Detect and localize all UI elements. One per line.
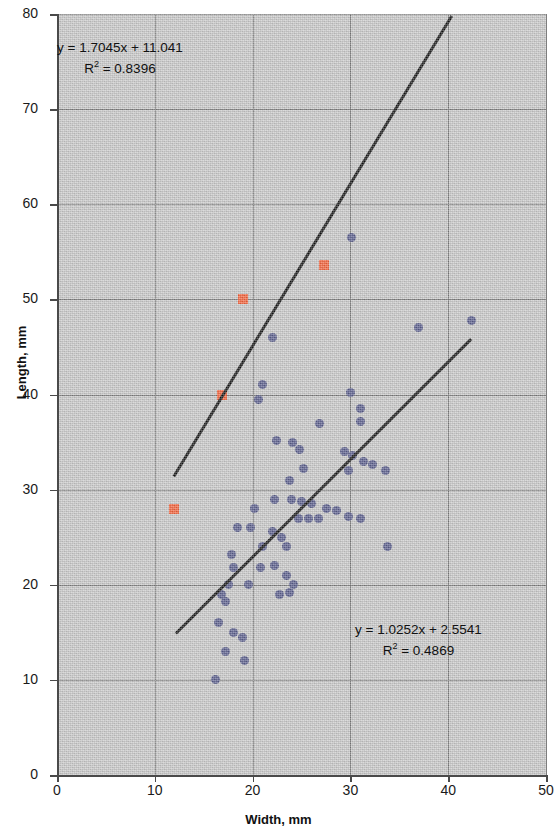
chart-figure: 01020304050607080 01020304050 Length, mm… xyxy=(0,0,557,838)
data-point-marker xyxy=(214,618,223,627)
data-point-marker xyxy=(383,542,392,551)
data-point-marker xyxy=(233,523,242,532)
data-point-marker xyxy=(238,294,248,304)
x-axis-line xyxy=(57,775,547,777)
x-tick-mark xyxy=(350,775,352,782)
trendline xyxy=(175,338,473,635)
y-tick-label: 80 xyxy=(0,5,38,21)
data-point-marker xyxy=(346,388,355,397)
gridline-vertical xyxy=(546,14,547,775)
gridline-horizontal xyxy=(57,299,546,300)
data-point-marker xyxy=(368,460,377,469)
y-tick-mark xyxy=(50,395,57,397)
y-tick-mark xyxy=(50,775,57,777)
y-tick-label: 60 xyxy=(0,195,38,211)
y-tick-label: 70 xyxy=(0,100,38,116)
y-tick-mark xyxy=(50,490,57,492)
data-point-marker xyxy=(359,457,368,466)
data-point-marker xyxy=(322,504,331,513)
gridline-horizontal xyxy=(57,490,546,491)
y-tick-mark xyxy=(50,14,57,16)
x-tick-mark xyxy=(155,775,157,782)
y-tick-mark xyxy=(50,680,57,682)
gridline-horizontal xyxy=(57,14,546,15)
equation-text: y = 1.0252x + 2.5541 xyxy=(355,622,482,637)
data-point-marker xyxy=(414,323,423,332)
x-tick-label: 0 xyxy=(37,782,77,798)
r-squared-text: R2 = 0.8396 xyxy=(57,58,183,78)
y-tick-mark xyxy=(50,109,57,111)
r-squared-text: R2 = 0.4869 xyxy=(355,640,482,660)
x-tick-label: 10 xyxy=(135,782,175,798)
data-point-marker xyxy=(356,404,365,413)
data-point-marker xyxy=(254,395,263,404)
data-point-marker xyxy=(332,506,341,515)
data-point-marker xyxy=(304,514,313,523)
gridline-horizontal xyxy=(57,395,546,396)
data-point-marker xyxy=(282,571,291,580)
y-tick-mark xyxy=(50,585,57,587)
x-tick-label: 20 xyxy=(233,782,273,798)
data-point-marker xyxy=(240,656,249,665)
equation-text: y = 1.7045x + 11.041 xyxy=(57,40,183,55)
data-point-marker xyxy=(275,590,284,599)
data-point-marker xyxy=(299,464,308,473)
data-point-marker xyxy=(238,633,247,642)
y-tick-label: 20 xyxy=(0,576,38,592)
data-point-marker xyxy=(467,316,476,325)
trendline-equation-eq-bottom: y = 1.0252x + 2.5541R2 = 0.4869 xyxy=(355,620,482,660)
data-point-marker xyxy=(277,533,286,542)
gridline-horizontal xyxy=(57,585,546,586)
data-point-marker xyxy=(344,512,353,521)
gridline-vertical xyxy=(253,14,254,775)
data-point-marker xyxy=(319,260,329,270)
x-tick-mark xyxy=(448,775,450,782)
y-tick-label: 10 xyxy=(0,671,38,687)
data-point-marker xyxy=(285,588,294,597)
x-tick-mark xyxy=(253,775,255,782)
y-axis-line xyxy=(57,14,59,776)
data-point-marker xyxy=(270,561,279,570)
x-tick-label: 30 xyxy=(330,782,370,798)
data-point-marker xyxy=(356,514,365,523)
y-axis-title: Length, mm xyxy=(14,293,29,433)
x-tick-mark xyxy=(57,775,59,782)
data-point-marker xyxy=(282,542,291,551)
trendline xyxy=(173,16,454,478)
data-point-marker xyxy=(315,419,324,428)
data-point-marker xyxy=(250,504,259,513)
y-tick-mark xyxy=(50,299,57,301)
x-tick-label: 40 xyxy=(428,782,468,798)
data-point-marker xyxy=(246,523,255,532)
data-point-marker xyxy=(347,233,356,242)
data-point-marker xyxy=(258,380,267,389)
data-point-marker xyxy=(272,436,281,445)
x-tick-label: 50 xyxy=(526,782,557,798)
data-point-marker xyxy=(227,550,236,559)
x-axis-title: Width, mm xyxy=(0,812,557,827)
data-point-marker xyxy=(314,514,323,523)
y-tick-mark xyxy=(50,204,57,206)
data-point-marker xyxy=(221,597,230,606)
gridline-vertical xyxy=(155,14,156,775)
data-point-marker xyxy=(211,675,220,684)
gridline-horizontal xyxy=(57,680,546,681)
data-point-marker xyxy=(221,647,230,656)
y-tick-label: 30 xyxy=(0,481,38,497)
y-tick-label: 0 xyxy=(0,766,38,782)
data-point-marker xyxy=(344,466,353,475)
data-point-marker xyxy=(295,445,304,454)
plot-area xyxy=(57,14,546,775)
gridline-horizontal xyxy=(57,204,546,205)
trendline-equation-eq-top: y = 1.7045x + 11.041R2 = 0.8396 xyxy=(57,38,183,78)
data-point-marker xyxy=(285,476,294,485)
data-point-marker xyxy=(287,495,296,504)
data-point-marker xyxy=(356,417,365,426)
x-tick-mark xyxy=(546,775,548,782)
data-point-marker xyxy=(169,504,179,514)
gridline-vertical xyxy=(448,14,449,775)
data-point-marker xyxy=(256,563,265,572)
data-point-marker xyxy=(270,495,279,504)
data-point-marker xyxy=(381,466,390,475)
gridline-horizontal xyxy=(57,109,546,110)
